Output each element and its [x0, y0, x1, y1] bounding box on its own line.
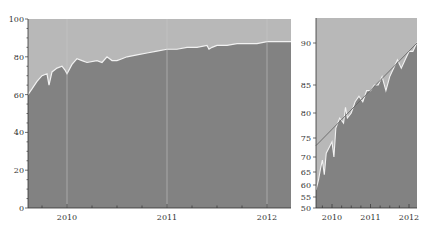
chart-canvas: 020406080100201020112012 505560657075808…	[0, 0, 433, 234]
y-tick-label: 40	[14, 128, 24, 137]
x-tick-label: 2010	[57, 213, 77, 222]
x-tick-label: 2011	[157, 213, 177, 222]
y-tick-label: 65	[301, 168, 311, 177]
y-tick-label: 80	[14, 53, 24, 62]
x-tick-label: 2012	[257, 213, 277, 222]
y-tick-label: 20	[14, 166, 24, 175]
y-tick-label: 85	[301, 81, 311, 90]
y-tick-label: 100	[9, 15, 24, 24]
y-tick-label: 60	[301, 181, 311, 190]
y-tick-label: 60	[14, 91, 24, 100]
y-tick-label: 80	[301, 109, 311, 118]
x-tick-label: 2012	[399, 213, 419, 222]
y-tick-label: 55	[301, 193, 311, 202]
y-tick-label: 0	[19, 204, 24, 213]
left-area-chart: 020406080100201020112012	[9, 15, 291, 222]
x-tick-label: 2010	[322, 213, 342, 222]
y-tick-label: 50	[301, 204, 311, 213]
right-area-chart: 505560657075808590201020112012	[301, 18, 419, 222]
y-tick-label: 70	[301, 153, 311, 162]
y-tick-label: 75	[301, 134, 311, 143]
x-tick-label: 2011	[360, 213, 380, 222]
y-tick-label: 90	[301, 39, 311, 48]
